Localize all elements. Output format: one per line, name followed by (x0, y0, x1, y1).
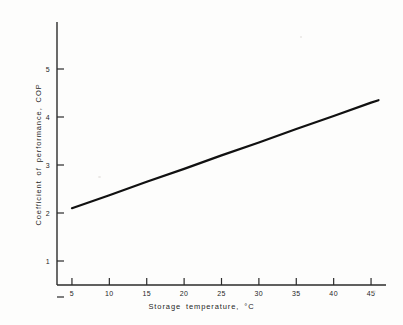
plot-area (0, 0, 403, 325)
x-tick-label: 45 (367, 290, 376, 297)
axis-lines (57, 22, 386, 285)
x-axis-ticks (72, 278, 371, 285)
x-axis-title: Storage temperature, °C (0, 302, 403, 311)
y-axis-ticks (57, 69, 64, 297)
x-tick-label: 25 (217, 290, 226, 297)
x-tick-label: 40 (329, 290, 338, 297)
data-series-group (72, 100, 379, 208)
x-tick-label: 10 (105, 290, 114, 297)
y-axis-title: Coefficient of performance, COP (34, 35, 43, 275)
x-tick-label: 5 (70, 290, 74, 297)
x-tick-label: 30 (255, 290, 264, 297)
chart-figure: 1234551015202530354045 Storage temperatu… (0, 0, 403, 325)
x-tick-label: 35 (292, 290, 301, 297)
data-line (72, 100, 379, 208)
x-tick-label: 15 (142, 290, 151, 297)
x-tick-label: 20 (180, 290, 189, 297)
